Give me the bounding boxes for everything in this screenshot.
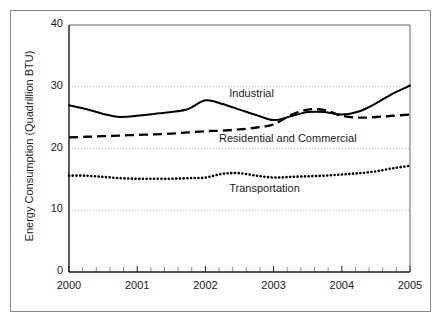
x-tick-label: 2002 bbox=[183, 279, 227, 291]
y-tick-label: 40 bbox=[35, 17, 63, 29]
x-tick-label: 2001 bbox=[115, 279, 159, 291]
x-tick-label: 2000 bbox=[47, 279, 91, 291]
chart-figure: Energy Consumption (Quadrillion BTU) 010… bbox=[0, 0, 441, 325]
y-tick-label: 20 bbox=[35, 141, 63, 153]
x-tick-label: 2005 bbox=[388, 279, 432, 291]
y-tick-label: 0 bbox=[35, 264, 63, 276]
line-chart-plot bbox=[0, 0, 441, 325]
x-tick-label: 2004 bbox=[320, 279, 364, 291]
y-axis-label: Energy Consumption (Quadrillion BTU) bbox=[23, 46, 35, 246]
x-major-ticks-group bbox=[69, 266, 410, 272]
x-tick-label: 2003 bbox=[252, 279, 296, 291]
series-label-industrial: Industrial bbox=[229, 87, 274, 99]
series-label-transportation: Transportation bbox=[229, 182, 300, 194]
x-minor-ticks-group bbox=[83, 267, 397, 272]
y-tick-label: 10 bbox=[35, 202, 63, 214]
series-line-2 bbox=[69, 166, 410, 179]
series-label-residential-and-commercial: Residential and Commercial bbox=[219, 132, 357, 144]
y-tick-label: 30 bbox=[35, 79, 63, 91]
